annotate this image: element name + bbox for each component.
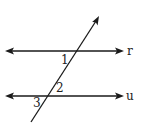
line-label-u: u <box>126 89 134 103</box>
transversal <box>31 16 99 122</box>
line-label-r: r <box>127 44 133 58</box>
angle-label-3: 3 <box>33 96 41 110</box>
angle-label-2: 2 <box>56 81 64 95</box>
diagram-canvas: r u 1 2 3 <box>0 0 144 123</box>
arrowhead-up-icon <box>92 16 99 26</box>
angle-label-1: 1 <box>61 53 69 67</box>
line-u <box>5 93 124 100</box>
